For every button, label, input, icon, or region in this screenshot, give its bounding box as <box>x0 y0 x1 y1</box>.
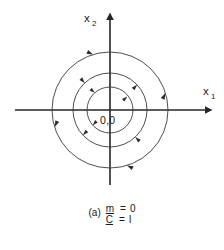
x2-axis-label-text: x <box>84 12 90 24</box>
caption-operator-m: = <box>117 204 129 215</box>
caption-index: (a) <box>89 203 106 219</box>
caption-symbol-c: C <box>106 215 116 226</box>
x1-axis <box>15 106 213 114</box>
orbit-middle-arrowhead-upper-right <box>132 84 139 91</box>
x2-axis <box>106 13 114 186</box>
x2-axis-label: x 2 <box>84 12 97 28</box>
caption-symbol-m: m <box>106 204 117 215</box>
x2-axis-label-subscript: 2 <box>92 19 97 28</box>
orbit-inner-arrowhead-upper-right <box>122 95 128 101</box>
caption-value-m: 0 <box>129 204 136 215</box>
phase-portrait-figure: x 2 x 1 0,0 (a) m = 0 C = I <box>0 0 224 250</box>
origin-label: 0,0 <box>100 114 116 126</box>
orbit-middle-arrowhead-lower-left <box>82 130 89 137</box>
orbit-middle-arrowhead-lower-right <box>134 136 141 143</box>
caption-operator-c: = <box>116 215 128 226</box>
x1-axis-label: x 1 <box>203 85 216 101</box>
x1-axis-label-subscript: 1 <box>211 92 216 101</box>
caption-equation-mean: m = 0 <box>106 204 136 215</box>
caption-row: (a) m = 0 C = I <box>89 203 136 226</box>
caption-equation-covariance: C = I <box>106 215 132 226</box>
caption-value-c: I <box>128 215 132 226</box>
x1-axis-arrowhead <box>205 106 213 114</box>
figure-caption: (a) m = 0 C = I <box>0 203 224 226</box>
caption-equations: m = 0 C = I <box>106 203 136 226</box>
x2-axis-arrowhead <box>106 13 114 21</box>
orbit-inner-arrowhead-lower-left <box>91 120 97 126</box>
x1-axis-label-text: x <box>203 85 209 97</box>
orbit-middle-arrowhead-upper-left <box>79 77 86 84</box>
